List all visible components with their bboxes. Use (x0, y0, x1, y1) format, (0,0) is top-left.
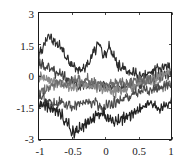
x-tick-label-0: 0 (103, 146, 109, 157)
y-tick-label-neg3: -3 (4, 134, 34, 145)
x-tick-label-neg1: -1 (35, 146, 44, 157)
y-tick-label-1-5: 1.5 (8, 41, 34, 52)
x-tick-label-neg0-5: -0.5 (64, 146, 81, 157)
y-tick-label-3: 3 (8, 9, 34, 20)
y-tick-label-neg1-5: -1.5 (4, 103, 34, 114)
figure-container: 3 1.5 0 -1.5 -3 -1 -0.5 0 0.5 1 (0, 0, 182, 167)
x-tick-label-0-5: 0.5 (132, 146, 146, 157)
y-tick-label-0: 0 (8, 71, 34, 82)
x-tick-label-1: 1 (168, 146, 174, 157)
